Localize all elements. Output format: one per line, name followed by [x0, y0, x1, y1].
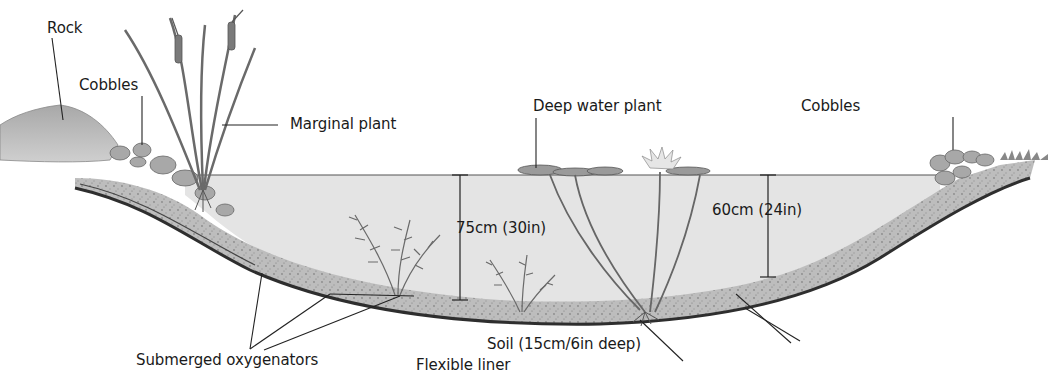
pond-illustration [0, 0, 1057, 382]
label-flexible-liner: Flexible liner [416, 358, 510, 373]
label-depth-75cm: 75cm (30in) [456, 221, 546, 236]
lily-flower [642, 147, 681, 169]
label-deep-water-plant: Deep water plant [533, 99, 661, 114]
label-depth-60cm: 60cm (24in) [712, 203, 802, 218]
pond-diagram: Rock Cobbles Marginal plant Deep water p… [0, 0, 1057, 382]
label-cobbles-left: Cobbles [79, 78, 138, 93]
rock [0, 105, 118, 162]
label-cobbles-right: Cobbles [801, 99, 860, 114]
label-soil: Soil (15cm/6in deep) [487, 337, 641, 352]
label-marginal-plant: Marginal plant [290, 117, 396, 132]
label-rock: Rock [47, 21, 82, 36]
grass-right [1000, 149, 1048, 160]
label-submerged-oxygenators: Submerged oxygenators [136, 353, 318, 368]
lily-pads [518, 165, 710, 176]
